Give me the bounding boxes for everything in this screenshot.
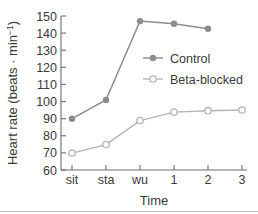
x-tick-label: sit [66, 173, 79, 187]
y-tick-label: 150 [36, 10, 57, 24]
data-point-beta-blocked [171, 109, 177, 115]
y-tick-label: 90 [43, 112, 57, 126]
y-tick-label: 80 [43, 129, 57, 143]
data-point-beta-blocked [103, 141, 109, 147]
y-axis-title-end: ) [5, 21, 20, 25]
x-axis-title: Time [140, 193, 168, 208]
data-point-beta-blocked [137, 117, 143, 123]
chart-figure: 150 140 130 120 110 100 90 80 70 60 sit … [0, 0, 258, 214]
x-tick-label: 3 [239, 173, 246, 187]
y-tick-label: 130 [36, 44, 57, 58]
data-point-control [69, 116, 75, 122]
legend-label-beta-blocked: Beta-blocked [170, 73, 243, 87]
data-point-beta-blocked [205, 108, 211, 114]
x-tick-label: sta [98, 173, 115, 187]
legend-marker-control [150, 55, 156, 61]
data-point-beta-blocked [239, 107, 245, 113]
y-tick-label: 110 [37, 78, 57, 92]
data-point-control [205, 26, 211, 32]
x-tick-label: 2 [205, 173, 212, 187]
y-tick-label: 60 [43, 164, 57, 178]
y-axis-title-superscript: −1 [5, 25, 15, 35]
x-tick-label: 1 [171, 173, 178, 187]
svg-text:Heart rate (beats · min−1): Heart rate (beats · min−1) [5, 21, 20, 165]
y-tick-label: 140 [36, 27, 57, 41]
data-point-beta-blocked [69, 150, 75, 156]
y-axis-title-main: Heart rate (beats · min [5, 35, 20, 165]
y-tick-label: 120 [36, 61, 57, 75]
y-tick-label: 70 [43, 146, 57, 160]
y-tick-label: 100 [36, 95, 57, 109]
legend-label-control: Control [170, 52, 210, 66]
data-point-control [171, 21, 177, 27]
bottom-divider [0, 211, 258, 212]
y-axis-title: Heart rate (beats · min−1) [5, 21, 20, 165]
data-point-control [137, 18, 143, 24]
data-point-control [103, 97, 109, 103]
heart-rate-line-chart: 150 140 130 120 110 100 90 80 70 60 sit … [0, 0, 258, 214]
legend-marker-beta-blocked [150, 76, 156, 82]
x-tick-label: wu [131, 173, 148, 187]
